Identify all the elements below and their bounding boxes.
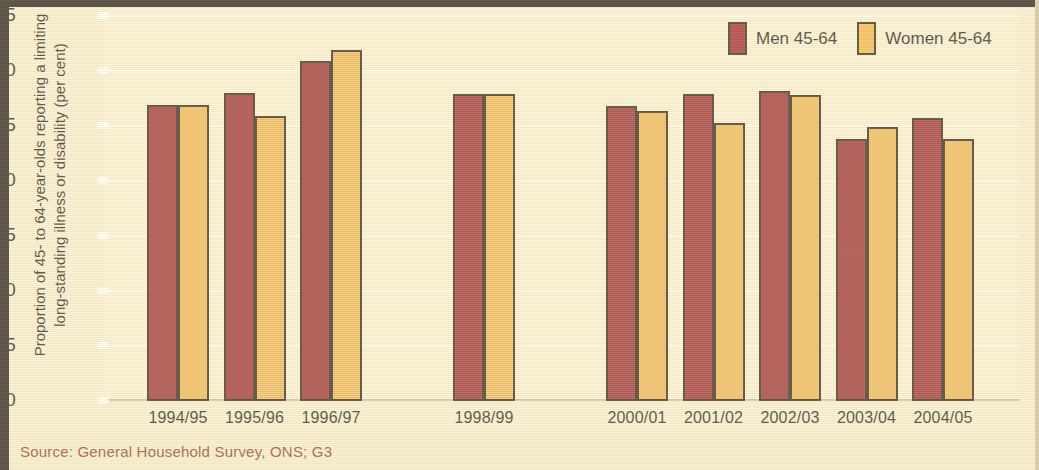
y-tick-mark-0	[97, 397, 109, 404]
y-tick-mark-35	[97, 12, 109, 19]
bar-women-1996-97	[331, 50, 362, 401]
bar-women-1995-96	[255, 116, 286, 401]
source-text: Source: General Household Survey, ONS; G…	[20, 443, 332, 460]
men-swatch-icon	[728, 22, 747, 55]
bar-men-2003-04	[836, 139, 867, 401]
legend-entry-men: Men 45-64	[728, 22, 837, 55]
x-tick-label-1995-96: 1995/96	[215, 409, 295, 427]
y-tick-mark-30	[97, 67, 109, 74]
bar-men-1996-97	[300, 61, 331, 401]
x-tick-label-2002-03: 2002/03	[750, 409, 830, 427]
bar-men-2000-01	[606, 106, 637, 401]
y-tick-mark-5	[97, 342, 109, 349]
x-tick-label-2004-05: 2004/05	[903, 409, 983, 427]
x-tick-label-1998-99: 1998/99	[444, 409, 524, 427]
chart-figure: Proportion of 45- to 64-year-olds report…	[0, 0, 1039, 470]
chart-legend: Men 45-64 Women 45-64	[728, 22, 992, 55]
legend-entry-women: Women 45-64	[857, 22, 991, 55]
bar-women-2000-01	[637, 111, 668, 401]
bar-women-1994-95	[178, 105, 209, 401]
y-tick-mark-20	[97, 177, 109, 184]
legend-label-women: Women 45-64	[885, 29, 991, 49]
bar-women-2001-02	[714, 123, 745, 401]
bar-men-1994-95	[147, 105, 178, 401]
x-tick-label-2000-01: 2000/01	[597, 409, 677, 427]
bar-men-2004-05	[912, 118, 943, 401]
x-tick-label-1996-97: 1996/97	[291, 409, 371, 427]
source-bar: Source: General Household Survey, ONS; G…	[9, 433, 1035, 470]
legend-label-men: Men 45-64	[756, 29, 837, 49]
y-tick-mark-25	[97, 122, 109, 129]
x-tick-label-2001-02: 2001/02	[674, 409, 754, 427]
scan-edge-left	[0, 0, 9, 470]
bar-men-1995-96	[224, 93, 255, 401]
y-axis-title-line-1: Proportion of 45- to 64-year-olds report…	[30, 0, 50, 385]
bar-women-1998-99	[484, 94, 515, 401]
bar-women-2003-04	[867, 127, 898, 401]
plot-area	[103, 16, 1019, 401]
gridline-35	[103, 15, 1019, 17]
gridline-30	[103, 70, 1019, 72]
x-tick-label-1994-95: 1994/95	[138, 409, 218, 427]
y-tick-mark-10	[97, 287, 109, 294]
y-axis-title-line-2: long-standing illness or disability (per…	[50, 0, 70, 385]
scan-edge-right	[1035, 0, 1039, 470]
y-axis-title: Proportion of 45- to 64-year-olds report…	[30, 0, 70, 385]
scan-edge-top	[0, 0, 1039, 7]
y-tick-mark-15	[97, 232, 109, 239]
bar-men-1998-99	[453, 94, 484, 401]
x-tick-label-2003-04: 2003/04	[827, 409, 907, 427]
bar-men-2001-02	[683, 94, 714, 401]
bar-women-2002-03	[790, 95, 821, 401]
women-swatch-icon	[857, 22, 876, 55]
bar-men-2002-03	[759, 91, 790, 401]
bar-women-2004-05	[943, 139, 974, 401]
